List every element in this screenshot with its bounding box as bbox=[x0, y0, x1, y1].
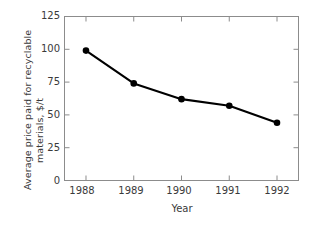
plot-area bbox=[0, 0, 314, 228]
data-point-1991 bbox=[226, 102, 233, 109]
data-point-1988 bbox=[83, 47, 90, 54]
data-point-1989 bbox=[130, 80, 137, 87]
data-point-1992 bbox=[274, 119, 281, 126]
data-point-1990 bbox=[178, 96, 185, 103]
data-line-series-1 bbox=[86, 51, 277, 123]
chart-figure: Average price paid for recyclable materi… bbox=[0, 0, 314, 228]
